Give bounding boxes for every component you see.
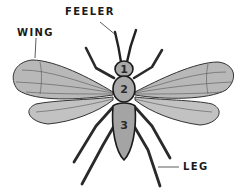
wing-label: WING xyxy=(17,27,54,38)
leg-label: LEG xyxy=(183,161,209,172)
segment-number-1: 1 xyxy=(120,63,128,76)
left-hind-leg xyxy=(82,126,114,184)
left-forewing xyxy=(13,60,113,99)
segment-number-3: 3 xyxy=(120,119,128,132)
insect-diagram: 1 2 3 FEELER WING LEG xyxy=(0,0,246,196)
right-front-leg xyxy=(134,50,162,78)
right-feeler-icon xyxy=(127,30,136,62)
left-feeler-icon xyxy=(115,32,121,62)
feeler-label: FEELER xyxy=(65,6,115,17)
segment-number-2: 2 xyxy=(120,83,128,96)
wing-leader-line xyxy=(35,38,36,58)
left-front-leg xyxy=(86,48,114,78)
